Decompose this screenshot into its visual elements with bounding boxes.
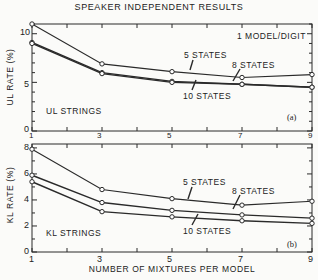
xtick-5: 5 xyxy=(167,254,172,264)
data-point-marker xyxy=(240,219,244,223)
mid-xtick-3: 3 xyxy=(97,131,101,140)
bottom-y-axis-label: KL RATE (%) xyxy=(5,155,15,235)
data-point-marker xyxy=(30,41,34,45)
data-point-marker xyxy=(240,82,244,86)
top-label-5-states: 5 STATES xyxy=(184,50,227,60)
leader-arrow xyxy=(192,80,196,90)
bottom-annotation: KL STRINGS xyxy=(46,228,101,238)
top-label-10-states: 10 STATES xyxy=(183,91,231,101)
data-point-marker xyxy=(170,215,174,219)
leader-arrow xyxy=(233,69,240,81)
data-point-marker xyxy=(170,196,174,200)
top-ytick-5: 5 xyxy=(24,79,29,89)
plot-canvas xyxy=(0,0,318,280)
leader-arrow xyxy=(190,60,193,70)
data-point-marker xyxy=(30,180,34,184)
mid-xtick-9: 9 xyxy=(308,131,312,140)
top-y-axis-label: UL RATE (%) xyxy=(5,37,15,117)
top-ytick-10: 10 xyxy=(20,27,30,37)
bottom-label-10-states: 10 STATES xyxy=(183,226,231,236)
data-point-marker xyxy=(310,216,314,220)
xtick-7: 7 xyxy=(238,254,243,264)
data-point-marker xyxy=(100,209,104,213)
mid-xtick-1: 1 xyxy=(29,131,33,140)
mid-xtick-7: 7 xyxy=(238,131,242,140)
bottom-panel-tag: (b) xyxy=(287,239,297,249)
top-panel-tag: (a) xyxy=(287,112,296,122)
data-point-marker xyxy=(30,173,34,177)
xtick-3: 3 xyxy=(97,254,102,264)
bottom-ytick-6: 6 xyxy=(24,168,29,178)
data-point-marker xyxy=(30,22,34,26)
top-note: 1 MODEL/DIGIT xyxy=(237,31,306,41)
data-point-marker xyxy=(30,147,34,151)
leader-arrow xyxy=(188,187,192,199)
data-point-marker xyxy=(100,200,104,204)
leader-arrow xyxy=(192,214,198,225)
data-point-marker xyxy=(310,199,314,203)
bottom-ytick-8: 8 xyxy=(24,142,29,152)
bottom-ytick-4: 4 xyxy=(24,194,29,204)
leader-arrow xyxy=(233,195,240,209)
data-point-marker xyxy=(170,69,174,73)
data-point-marker xyxy=(310,85,314,89)
data-point-marker xyxy=(170,208,174,212)
data-point-marker xyxy=(310,221,314,225)
xtick-1: 1 xyxy=(29,254,34,264)
data-point-marker xyxy=(310,72,314,76)
data-point-marker xyxy=(100,62,104,66)
xtick-9: 9 xyxy=(308,254,313,264)
top-label-8-states: 8 STATES xyxy=(232,60,275,70)
mid-xtick-5: 5 xyxy=(167,131,171,140)
data-point-marker xyxy=(240,203,244,207)
figure: SPEAKER INDEPENDENT RESULTS UL RATE (%) … xyxy=(0,0,318,280)
data-point-marker xyxy=(240,213,244,217)
data-point-marker xyxy=(240,75,244,79)
data-point-marker xyxy=(170,80,174,84)
bottom-ytick-2: 2 xyxy=(24,220,29,230)
data-point-marker xyxy=(100,187,104,191)
x-axis-label: NUMBER OF MIXTURES PER MODEL xyxy=(32,264,312,274)
data-point-marker xyxy=(100,71,104,75)
bottom-label-5-states: 5 STATES xyxy=(183,177,226,187)
bottom-label-8-states: 8 STATES xyxy=(232,186,275,196)
top-annotation: UL STRINGS xyxy=(46,106,102,116)
